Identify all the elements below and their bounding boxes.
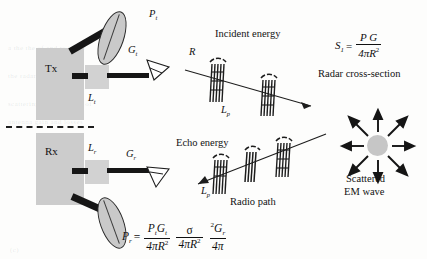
transmitter-block <box>36 48 84 120</box>
wave-packet-echo-2 <box>238 144 268 190</box>
equation-equals: = <box>346 40 352 52</box>
receive-waveguide-segment-1 <box>72 168 88 174</box>
wave-packet-echo-1 <box>205 152 239 202</box>
radar-cross-section-caption: Radar cross-section <box>318 68 401 80</box>
range-label: R <box>189 46 195 57</box>
figure-canvas: a the the of and to in for the radar equ… <box>0 0 427 259</box>
term-3-denominator: 4π <box>210 238 226 252</box>
receive-waveguide-segment-2 <box>107 168 149 173</box>
received-power-equation: Pr = PtGt 4πR2 σ 4πR2 2Gr 4π <box>122 222 229 252</box>
term-1-numerator: PtGt <box>146 222 169 238</box>
fraction-denominator: 4πR2 <box>356 44 381 59</box>
receive-loss-block <box>85 160 109 184</box>
equation-lhs: S1 <box>335 39 344 53</box>
tx-rx-divider <box>6 126 94 128</box>
term-2-numerator: σ <box>184 224 194 237</box>
received-power-equals: = <box>134 231 141 243</box>
transmit-horn-feed <box>145 58 171 82</box>
incident-energy-caption: Incident energy <box>215 28 280 40</box>
fraction-numerator: P G <box>358 32 379 44</box>
receive-loss-label: Lr <box>88 142 96 155</box>
received-power-term-1: PtGt 4πR2 <box>144 222 170 252</box>
transmit-loss-label: Lt <box>88 92 96 105</box>
wave-packet-incident-2 <box>253 72 287 122</box>
receive-horn-feed <box>145 165 171 189</box>
transmit-waveguide-segment-1 <box>72 73 88 79</box>
wave-packet-echo-3 <box>268 135 302 183</box>
term-2-denominator: 4πR2 <box>176 237 202 251</box>
path-loss-lower-label: Lp <box>201 185 210 198</box>
wave-packet-incident-1 <box>202 56 236 108</box>
path-loss-upper-label: Lp <box>221 104 230 117</box>
transmitter-label: Tx <box>45 62 57 74</box>
transmit-loss-block <box>85 65 109 89</box>
receive-gain-label: Gr <box>126 148 136 161</box>
transmit-waveguide-segment-2 <box>107 73 149 78</box>
term-1-denominator: 4πR2 <box>144 238 170 252</box>
received-power-term-2: σ 4πR2 <box>176 224 202 251</box>
equation-fraction: P G 4πR2 <box>356 32 381 59</box>
scattered-wave-caption-line2: EM wave <box>344 186 385 198</box>
transmit-gain-label: Gt <box>128 44 137 57</box>
received-power-term-3: 2Gr 4π <box>209 222 228 252</box>
receiver-label: Rx <box>45 145 58 157</box>
radio-path-caption: Radio path <box>230 196 276 208</box>
scattered-wave-caption-line1: Scattered <box>346 173 385 185</box>
transmit-power-label: Pt <box>149 8 157 21</box>
received-power-lhs: Pr <box>122 230 132 245</box>
incident-power-density-equation: S1 = P G 4πR2 <box>335 32 383 59</box>
term-3-numerator: 2Gr <box>209 222 228 238</box>
ghost-text-5: (c) <box>10 246 19 254</box>
